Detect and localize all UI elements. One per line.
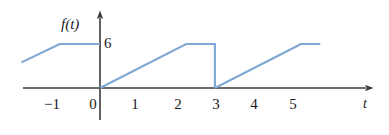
curve-segment-first-period xyxy=(100,44,215,88)
curve-segment-second-period xyxy=(215,44,320,88)
y-axis-label: f(t) xyxy=(61,17,79,32)
x-tick-label-2: 2 xyxy=(167,97,189,112)
x-tick-label-1: 1 xyxy=(124,97,146,112)
x-axis-label: t xyxy=(363,97,367,111)
y-value-label-6: 6 xyxy=(104,36,112,51)
waveform-figure: f(t) t 6 −1 0 1 2 3 4 5 xyxy=(0,0,389,135)
curve-segment-left-ramp xyxy=(21,44,100,62)
x-tick-label-3: 3 xyxy=(205,97,227,112)
x-tick-label-5: 5 xyxy=(282,97,304,112)
x-tick-label-4: 4 xyxy=(243,97,265,112)
waveform-plot-svg xyxy=(0,0,389,135)
x-tick-label-minus1: −1 xyxy=(41,97,63,112)
x-tick-label-0: 0 xyxy=(82,97,104,112)
